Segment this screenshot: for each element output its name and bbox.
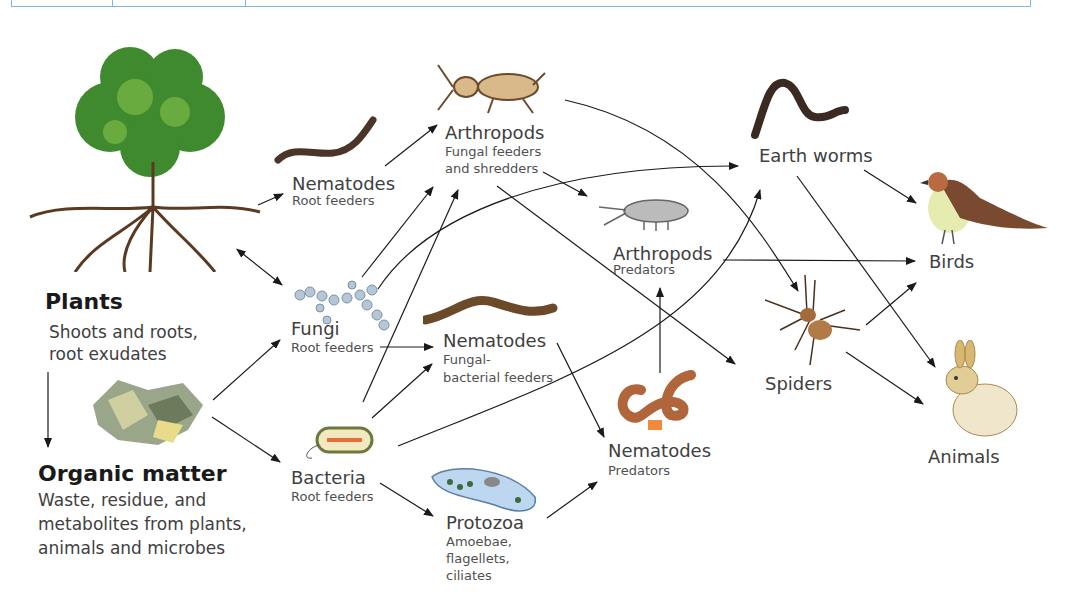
- arthropods-predators-title: Arthropods: [613, 244, 712, 264]
- arthropods-fungal-sub-2: and shredders: [445, 161, 538, 176]
- earthworm-icon: [750, 75, 850, 140]
- nematode-predator-icon: [616, 370, 701, 435]
- nematodes-root-sub: Root feeders: [292, 193, 375, 208]
- nematodes-predators-sub: Predators: [608, 463, 670, 478]
- protozoa-icon: [430, 462, 540, 517]
- protozoa-sub-3: ciliates: [446, 568, 492, 583]
- arthropods-predators-sub: Predators: [613, 262, 675, 277]
- protozoa-title: Protozoa: [446, 513, 524, 533]
- plants-desc-1: Shoots and roots,: [49, 321, 198, 343]
- organic-desc-1: Waste, residue, and: [38, 489, 206, 511]
- spider-icon: [765, 275, 865, 365]
- arthropods-fungal-title: Arthropods: [445, 123, 544, 143]
- nematodes-root-title: Nematodes: [292, 174, 395, 194]
- bacteria-sub: Root feeders: [291, 489, 374, 504]
- rabbit-icon: [940, 340, 1025, 440]
- fungi-title: Fungi: [291, 319, 340, 339]
- protozoa-sub-1: Amoebae,: [446, 534, 512, 549]
- bacteria-icon: [297, 420, 377, 460]
- nematodes-fungal-sub-1: Fungal-: [443, 352, 491, 367]
- animals-title: Animals: [928, 447, 1000, 467]
- nematode-icon: [273, 115, 378, 170]
- tree-icon: [25, 32, 265, 272]
- plants-title: Plants: [45, 289, 123, 315]
- plants-desc-2: root exudates: [49, 343, 167, 365]
- spiders-title: Spiders: [765, 374, 832, 394]
- nematodes-predators-title: Nematodes: [608, 441, 711, 461]
- protozoa-sub-2: flagellets,: [446, 551, 510, 566]
- birds-title: Birds: [929, 252, 974, 272]
- arthropod-icon: [433, 55, 548, 115]
- nematode-icon: [423, 290, 558, 330]
- arthropods-fungal-sub-1: Fungal feeders: [445, 144, 541, 159]
- bird-icon: [920, 168, 1050, 248]
- springtail-icon: [594, 195, 694, 233]
- fungi-sub: Root feeders: [291, 340, 374, 355]
- nematodes-fungal-title: Nematodes: [443, 331, 546, 351]
- organic-matter-title: Organic matter: [38, 461, 227, 487]
- earthworms-title: Earth worms: [759, 146, 873, 166]
- organic-desc-2: metabolites from plants,: [38, 513, 247, 535]
- leaf-litter-icon: [88, 375, 208, 450]
- nematodes-fungal-sub-2: bacterial feeders: [443, 370, 553, 385]
- organic-desc-3: animals and microbes: [38, 537, 225, 559]
- bacteria-title: Bacteria: [291, 468, 366, 488]
